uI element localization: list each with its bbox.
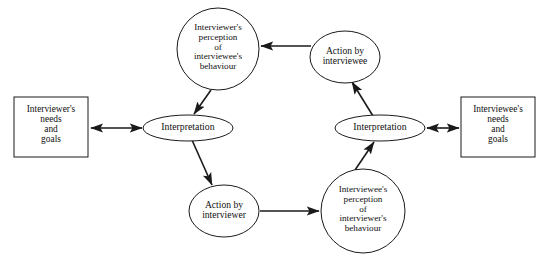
- node-interpretation-left: [143, 115, 233, 141]
- node-interpretation-right: [335, 115, 425, 141]
- node-interviewee-perception: [321, 169, 405, 253]
- edge-interpretation-right-to-action-by-interviewee: [352, 82, 373, 116]
- nodes-layer: [14, 8, 535, 253]
- node-interviewer-perception: [177, 8, 259, 90]
- node-action-by-interviewee: [310, 31, 380, 83]
- edge-interviewer-perception-to-interpretation-left: [194, 90, 211, 114]
- node-interviewer-needs: [14, 97, 88, 157]
- node-interviewee-needs: [461, 97, 535, 157]
- interview-communication-cycle-diagram: Interviewer's perception of interviewee'…: [0, 0, 547, 265]
- edge-interpretation-left-to-action-by-interviewer: [192, 140, 212, 185]
- node-action-by-interviewer: [189, 185, 259, 237]
- edge-interviewee-perception-to-interpretation-right: [355, 142, 374, 170]
- diagram-canvas: [0, 0, 547, 265]
